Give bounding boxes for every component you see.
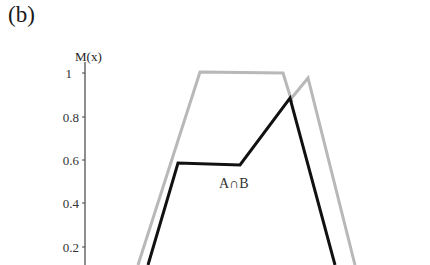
intersection-annotation: A∩B	[219, 176, 249, 191]
tick-label-1: 1	[66, 66, 73, 81]
tick-label-0.8: 0.8	[63, 110, 79, 125]
tick-label-0.4: 0.4	[63, 196, 80, 211]
series-a-line	[138, 72, 292, 265]
y-axis-title: M(x)	[75, 49, 102, 64]
series-b-line	[290, 78, 355, 265]
tick-label-0.2: 0.2	[63, 240, 79, 255]
tick-label-0.6: 0.6	[63, 153, 80, 168]
membership-chart: M(x) 1 0.8 0.6 0.4 0.2 A∩B	[0, 0, 430, 265]
